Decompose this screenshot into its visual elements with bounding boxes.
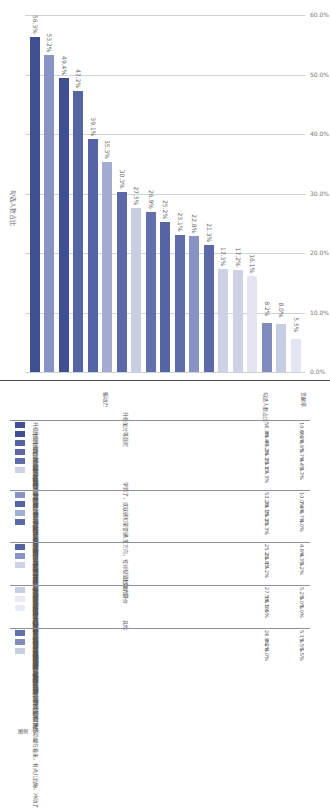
row-weight: 4.0% [299, 519, 305, 532]
y-tick-label: 60.0% [310, 11, 329, 18]
bar-value-label: 8.0% [279, 302, 286, 317]
header-legend: 图例 [18, 727, 28, 734]
bar [59, 78, 69, 372]
header-weight: 贡献率 [301, 392, 308, 407]
bar [45, 55, 55, 372]
bar [190, 236, 200, 372]
legend-swatch [15, 449, 25, 455]
row-share: 5.5% [264, 605, 270, 618]
bar [132, 208, 142, 372]
bar-value-label: 53.2% [47, 33, 54, 52]
bar [277, 324, 287, 372]
legend-swatch [15, 587, 25, 593]
bar [219, 269, 229, 372]
legend-swatch [15, 431, 25, 437]
bar-value-label: 8.2% [264, 301, 271, 316]
group-title: 升级加分等目的 [123, 412, 130, 447]
legend-swatch [15, 596, 25, 602]
y-tick-label: 30.0% [310, 190, 329, 197]
row-weight: 3.3% [299, 467, 305, 480]
legend-swatch [15, 422, 25, 428]
bar [74, 91, 84, 372]
bar-value-label: 25.2% [163, 200, 170, 219]
bar-value-label: 23.1% [177, 213, 184, 232]
y-tick-label: 50.0% [310, 71, 329, 78]
legend-swatch [15, 630, 25, 636]
bar [248, 276, 258, 372]
legend-swatch [15, 519, 25, 525]
y-tick-label: 40.0% [310, 130, 329, 137]
group-divider [10, 628, 310, 629]
bar-value-label: 22.8% [192, 214, 199, 233]
bar-value-label: 35.3% [105, 140, 112, 159]
legend-swatch [15, 467, 25, 473]
legend-swatch [15, 639, 25, 645]
bar-value-label: 17.2% [235, 248, 242, 267]
header-share: 勾选人数占比 [263, 392, 270, 422]
y-tick-label: 10.0% [310, 309, 329, 316]
row-share: 17.2% [264, 562, 270, 578]
bar-value-label: 49.4% [61, 56, 68, 75]
legend-swatch [15, 440, 25, 446]
legend-swatch [15, 562, 25, 568]
bar-value-label: 16.1% [250, 254, 257, 273]
driver-table: 图例 驱动力勾选人数占比贡献率升级加分等目的升级加分：综合测试加分，提升排名56… [0, 372, 330, 744]
bar [204, 245, 214, 372]
table-divider [0, 380, 330, 381]
gridline [25, 15, 305, 16]
y-axis-title: 勾选人数占比 [9, 190, 18, 226]
header-driver: 驱动力 [103, 392, 110, 407]
group-divider [10, 490, 310, 491]
bar-value-label: 26.9% [148, 190, 155, 209]
row-label: 冲动行为：被当年老师学长鼓动了热情，现在看来，有点儿后悔，冲动了 [33, 648, 40, 808]
bar [103, 162, 113, 372]
bar-value-label: 5.5% [293, 317, 300, 332]
row-weight: 1.0% [299, 605, 305, 618]
row-weight: 1.5% [299, 648, 305, 661]
legend-swatch [15, 458, 25, 464]
row-share: 8.0% [264, 648, 270, 661]
bar [88, 139, 98, 372]
row-share: 21.3% [264, 519, 270, 535]
bar-value-label: 47.2% [76, 69, 83, 88]
bar-value-label: 39.1% [90, 117, 97, 136]
y-tick-label: 20.0% [310, 249, 329, 256]
row-share: 17.3% [264, 467, 270, 483]
bar-value-label: 17.3% [221, 247, 228, 266]
group-divider [10, 585, 310, 586]
bar [146, 212, 156, 372]
bar [262, 323, 272, 372]
legend-swatch [15, 501, 25, 507]
legend-swatch [15, 648, 25, 654]
group-divider [10, 542, 310, 543]
legend-swatch [15, 553, 25, 559]
group-title: 社交价值 [123, 577, 130, 597]
legend-swatch [15, 544, 25, 550]
legend-swatch [15, 605, 25, 611]
bar-value-label: 56.3% [32, 15, 39, 34]
bar [233, 270, 243, 372]
bar [30, 37, 40, 372]
group-divider [10, 420, 310, 421]
legend-swatch [15, 492, 25, 498]
row-weight: 3.2% [299, 562, 305, 575]
bar [291, 339, 301, 372]
bar [175, 235, 185, 372]
bar [117, 192, 127, 372]
bar-value-label: 21.3% [206, 223, 213, 242]
bar-value-label: 30.3% [119, 170, 126, 189]
bar [161, 222, 171, 372]
bar-value-label: 27.5% [134, 186, 141, 205]
legend-swatch [15, 510, 25, 516]
